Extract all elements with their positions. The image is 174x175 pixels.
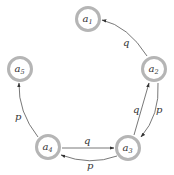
node-sub-a3: 3 [128,147,132,155]
edge-a4-a5 [19,83,38,137]
node-a3: a3 [117,137,140,160]
edge-label-a3-a4: p [87,160,94,171]
node-a2: a2 [143,58,166,81]
edge-label-a4-a3: q [84,135,90,146]
node-sub-a2: 2 [153,68,158,76]
node-sub-a5: 5 [20,68,24,76]
edge-label-a2-a3: p [156,104,163,115]
node-sub-a1: 1 [88,18,92,26]
state-diagram: q q p q p p a1 a2 a3 a4 a5 [0,0,174,175]
edge-label-a3-a2: q [133,104,139,115]
node-a1: a1 [77,8,100,31]
edge-label-a4-a5: p [15,111,22,122]
edge-label-a2-a1: q [123,37,129,48]
node-a4: a4 [37,136,60,159]
node-a5: a5 [9,58,32,81]
node-sub-a4: 4 [47,146,52,154]
